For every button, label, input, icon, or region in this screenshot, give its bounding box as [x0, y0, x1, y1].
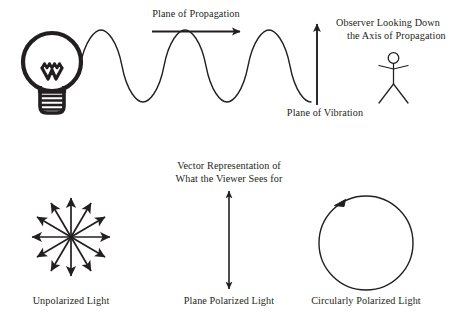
counter-clockwise-circle-arrow-icon	[319, 196, 413, 290]
observer-label-line2: the Axis of Propagation	[347, 30, 446, 42]
observer-label-line1: Observer Looking Down	[336, 17, 440, 29]
circularly-polarized-light-label: Circularly Polarized Light	[311, 295, 421, 307]
plane-of-propagation-label: Plane of Propagation	[152, 8, 239, 20]
plane-polarized-light-label: Plane Polarized Light	[184, 295, 274, 307]
light-bulb-icon	[23, 33, 81, 113]
unpolarized-light-label: Unpolarized Light	[33, 295, 110, 307]
plane-of-vibration-label: Plane of Vibration	[287, 107, 363, 119]
polarization-diagram: Plane of Propagation Plane of Vibration …	[0, 0, 461, 320]
vector-representation-caption-line1: Vector Representation of	[177, 160, 281, 172]
vector-representation-caption-line2: What the Viewer Sees for	[176, 173, 283, 185]
stick-figure-observer-icon	[379, 53, 408, 103]
sine-wave-icon	[80, 30, 311, 102]
radial-arrow-star-icon	[32, 198, 110, 276]
